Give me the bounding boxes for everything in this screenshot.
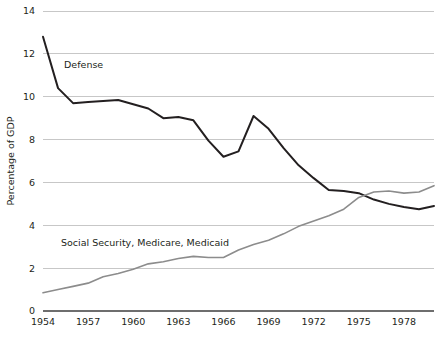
line-chart: 02468101214 1954195719601963196619691972… bbox=[0, 0, 440, 337]
x-tick-label: 1975 bbox=[347, 316, 371, 327]
y-axis-title: Percentage of GDP bbox=[5, 116, 16, 205]
y-tick-label: 0 bbox=[29, 305, 35, 316]
y-tick-label: 4 bbox=[29, 220, 35, 231]
x-tick-label: 1969 bbox=[256, 316, 280, 327]
y-tick-label: 10 bbox=[23, 91, 35, 102]
gridlines-group bbox=[43, 11, 434, 268]
x-tick-label: 1972 bbox=[302, 316, 326, 327]
series-label: Defense bbox=[64, 59, 103, 70]
x-tick-label: 1978 bbox=[392, 316, 416, 327]
x-tick-label: 1957 bbox=[76, 316, 100, 327]
series-label: Social Security, Medicare, Medicaid bbox=[61, 237, 229, 248]
series-group bbox=[43, 37, 434, 293]
y-tick-label: 12 bbox=[23, 48, 35, 59]
x-tick-label: 1954 bbox=[31, 316, 55, 327]
y-tick-label: 14 bbox=[23, 5, 35, 16]
y-tick-label: 8 bbox=[29, 134, 35, 145]
x-tick-label: 1966 bbox=[211, 316, 235, 327]
y-tick-label: 2 bbox=[29, 263, 35, 274]
x-tick-label: 1960 bbox=[121, 316, 145, 327]
series-annotations: DefenseSocial Security, Medicare, Medica… bbox=[61, 59, 229, 248]
x-axis-ticks: 195419571960196319661969197219751978 bbox=[31, 316, 416, 327]
y-axis-ticks: 02468101214 bbox=[23, 5, 35, 316]
chart-container: 02468101214 1954195719601963196619691972… bbox=[0, 0, 440, 337]
y-tick-label: 6 bbox=[29, 177, 35, 188]
x-tick-label: 1963 bbox=[166, 316, 190, 327]
